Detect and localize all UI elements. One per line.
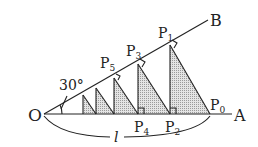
label-b: B bbox=[210, 11, 222, 30]
label-a: A bbox=[233, 106, 246, 125]
label-p1: P1 bbox=[158, 25, 173, 43]
label-angle: 30° bbox=[59, 77, 84, 93]
label-p2: P2 bbox=[165, 119, 180, 137]
right-angle-mark-p5 bbox=[116, 74, 120, 80]
length-arc bbox=[44, 116, 110, 137]
label-o: O bbox=[28, 105, 42, 125]
angle-leader bbox=[61, 96, 67, 109]
label-p4: P4 bbox=[134, 119, 149, 137]
geometry-diagram: O A B 30° l P0 P1 P2 P3 P4 P5 bbox=[0, 0, 258, 147]
label-p0: P0 bbox=[210, 97, 225, 115]
label-p5: P5 bbox=[100, 55, 115, 73]
label-length: l bbox=[114, 129, 118, 145]
label-p3: P3 bbox=[126, 43, 141, 61]
